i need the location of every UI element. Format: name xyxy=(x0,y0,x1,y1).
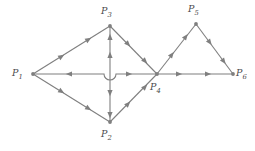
edge-p1-p2 xyxy=(33,74,110,122)
arrowhead-p1-p3-a xyxy=(58,53,66,61)
arrowhead-p4-p6-b xyxy=(205,71,211,76)
vertex-dot-p6 xyxy=(231,72,235,76)
vertex-label-p2: P2 xyxy=(101,129,112,142)
edge-p5-p6 xyxy=(196,24,233,74)
arrowhead-horizontal-left xyxy=(66,71,72,76)
vertex-label-p5: P5 xyxy=(188,4,199,17)
vertex-dot-p4 xyxy=(155,72,159,76)
arrowhead-p4-p6-a xyxy=(176,71,182,76)
arrowhead-vertical-up-b xyxy=(107,52,112,58)
vertex-label-p6: P6 xyxy=(236,68,247,81)
arrowhead-p1-p2-b xyxy=(85,105,93,113)
graph-canvas xyxy=(0,0,255,151)
arrowhead-vertical-up-a xyxy=(107,34,112,40)
arrowhead-p1-p3-b xyxy=(85,36,93,44)
edge-p4-p5 xyxy=(157,24,196,74)
vertex-dot-p1 xyxy=(31,72,35,76)
vertex-dot-p3 xyxy=(108,24,112,28)
vertex-label-p4: P4 xyxy=(150,82,161,95)
edge-p3-p4 xyxy=(110,26,157,74)
edge-p1-p3 xyxy=(33,26,110,74)
vertex-dot-p2 xyxy=(108,120,112,124)
arrowhead-p1-p2-a xyxy=(58,88,66,96)
vertex-label-p1: P1 xyxy=(12,68,23,81)
arrowhead-vertical-down-b xyxy=(107,112,112,118)
edge-p4-p1-horizontal xyxy=(33,74,157,80)
vertex-label-p3: P3 xyxy=(101,6,112,19)
vertex-dot-p5 xyxy=(194,22,198,26)
arrowhead-vertical-down-a xyxy=(107,90,112,96)
arrowhead-horizontal-right xyxy=(126,71,132,76)
edge-layer xyxy=(33,24,233,122)
graph-diagram: P1 P2 P3 P4 P5 P6 xyxy=(0,0,255,151)
vertex-layer xyxy=(31,22,235,124)
